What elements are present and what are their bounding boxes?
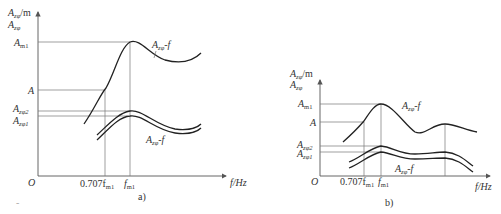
origin-label-a: O (28, 177, 35, 188)
caption-b: b) (385, 197, 393, 209)
curve-azphi-m-a (84, 41, 201, 124)
xtick-fm1-a: fm1 (124, 178, 135, 190)
ytick-a-b: A (309, 117, 317, 128)
xtick-0707fm1-b: 0.707fm1 (340, 176, 374, 188)
figure-canvas: Azφ/m Azφ O f/Hz Am1 A Azφ2 Azφ1 0.707fm… (0, 0, 501, 214)
y-axis-label-b-second: Azφ (289, 79, 303, 91)
page-mark: - (16, 197, 19, 208)
ytick-am1-b: Am1 (297, 98, 312, 110)
ytick-azphi1-a: Azφ1 (12, 115, 29, 127)
origin-label-b: O (311, 176, 318, 187)
y-axis-label-a: Azφ/m (7, 7, 31, 19)
ytick-azphi2-a: Azφ2 (12, 103, 29, 115)
curve-label-upper-a: Azφ-f (151, 39, 172, 51)
y-axis-label-a-second: Azφ (7, 19, 21, 31)
curve-label-lower-b: Azφ-f (394, 163, 415, 175)
x-axis-label-a: f/Hz (230, 177, 247, 188)
xtick-fm1-b: fm1 (378, 176, 389, 188)
ytick-a-a: A (27, 85, 35, 96)
ytick-am1-a: Am1 (13, 37, 28, 49)
curve-label-lower-a: Azφ-f (145, 134, 166, 146)
figure-b: Azφ/m Azφ O f/Hz Am1 A Azφ2 Azφ1 0.707fm… (289, 68, 492, 209)
curve-label-upper-b: Azφ-f (401, 100, 422, 112)
figure-a: Azφ/m Azφ O f/Hz Am1 A Azφ2 Azφ1 0.707fm… (7, 7, 247, 203)
xtick-0707fm1-a: 0.707fm1 (80, 178, 114, 190)
x-axis-label-b: f/Hz (475, 181, 492, 192)
caption-a: a) (138, 191, 146, 203)
